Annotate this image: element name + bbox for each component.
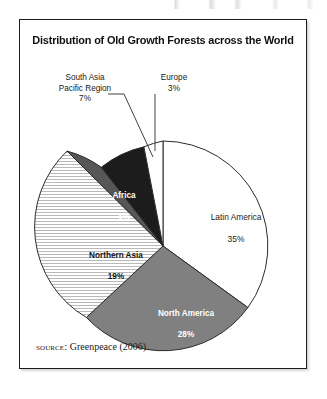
slice-label-northern-asia-name: Northern Asia bbox=[64, 251, 168, 262]
source-line: source: Greenpeace (2006). bbox=[36, 341, 149, 352]
slice-label-northern-asia: Northern Asia 19% bbox=[64, 240, 168, 293]
page-scan-artifact bbox=[168, 0, 320, 9]
slice-label-north-america-name: North America bbox=[134, 309, 238, 320]
callout-label-south-asia-pacific: South Asia Pacific Region 7% bbox=[42, 73, 128, 105]
source-label: source: bbox=[36, 341, 67, 352]
callout-label-europe: Europe 3% bbox=[151, 73, 197, 94]
slice-label-latin-america: Latin America 35% bbox=[188, 201, 284, 256]
slice-label-latin-america-name: Latin America bbox=[188, 212, 284, 223]
slice-label-africa-value: 8% bbox=[94, 212, 154, 223]
slice-label-northern-asia-value: 19% bbox=[64, 272, 168, 283]
figure-frame: Distribution of Old Growth Forests acros… bbox=[19, 19, 307, 369]
slice-label-north-america-value: 28% bbox=[134, 330, 238, 341]
slice-label-latin-america-value: 35% bbox=[188, 234, 284, 245]
slice-label-north-america: North America 28% bbox=[134, 298, 238, 351]
source-text: Greenpeace (2006). bbox=[70, 341, 149, 352]
slice-label-africa-name: Africa bbox=[94, 191, 154, 202]
slice-label-africa: Africa 8% bbox=[94, 180, 154, 233]
